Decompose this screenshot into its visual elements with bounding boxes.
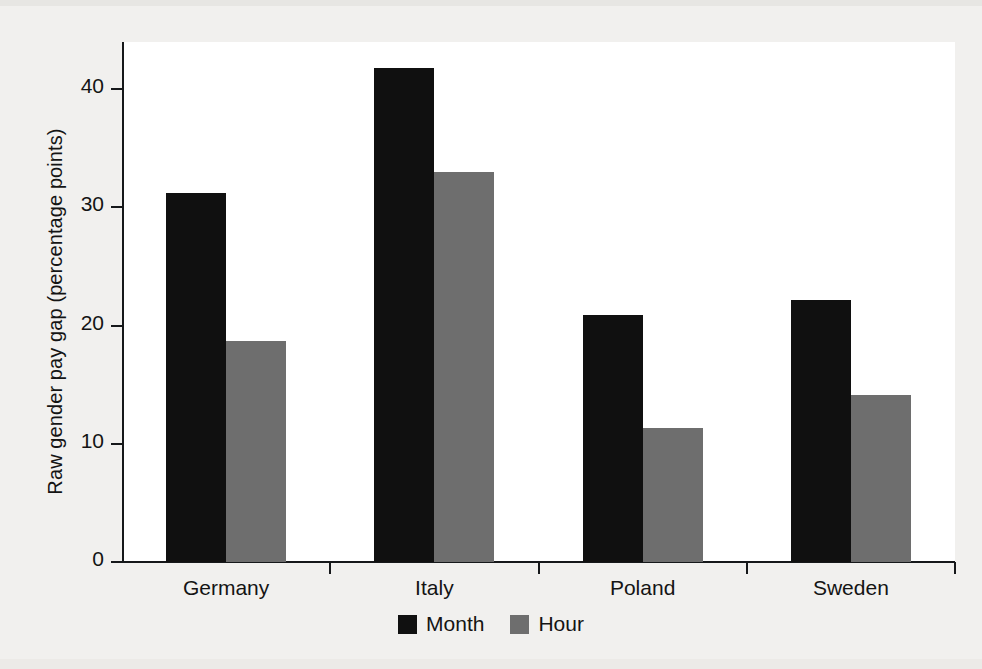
bars-layer: [122, 42, 955, 562]
bar-italy-hour: [434, 172, 494, 562]
chart-legend: MonthHour: [0, 612, 982, 636]
y-axis-tick-mark: [111, 443, 122, 445]
y-axis-title: Raw gender pay gap (percentage points): [44, 52, 67, 572]
legend-swatch-icon: [510, 615, 529, 634]
y-axis-tick-label: 10: [81, 429, 104, 453]
legend-entry-hour: Hour: [510, 612, 584, 636]
bar-sweden-hour: [851, 395, 911, 562]
bar-poland-month: [583, 315, 643, 562]
legend-label: Hour: [538, 612, 584, 636]
bar-germany-hour: [226, 341, 286, 562]
x-axis-tick-mark: [954, 562, 956, 574]
y-axis-tick-mark: [111, 88, 122, 90]
x-axis-tick-mark: [538, 562, 540, 574]
y-axis-tick-label: 0: [92, 547, 104, 571]
x-axis-tick-mark: [746, 562, 748, 574]
y-axis-tick: 0: [0, 561, 122, 563]
y-axis-tick: 20: [0, 325, 122, 327]
legend-swatch-icon: [398, 615, 417, 634]
legend-entry-month: Month: [398, 612, 484, 636]
bar-poland-hour: [643, 428, 703, 562]
bar-chart-figure: Raw gender pay gap (percentage points) 0…: [0, 0, 982, 669]
bar-germany-month: [166, 193, 226, 562]
y-axis-tick-label: 30: [81, 192, 104, 216]
y-axis-tick: 10: [0, 443, 122, 445]
y-axis-tick: 30: [0, 206, 122, 208]
x-axis-label-italy: Italy: [415, 576, 454, 600]
bar-italy-month: [374, 68, 434, 562]
x-axis-tick-mark: [329, 562, 331, 574]
y-axis-tick-mark: [111, 206, 122, 208]
x-axis-label-sweden: Sweden: [813, 576, 889, 600]
y-axis-tick-label: 20: [81, 311, 104, 335]
y-axis-tick-mark: [111, 561, 122, 563]
y-axis-tick-label: 40: [81, 74, 104, 98]
x-axis-label-poland: Poland: [610, 576, 675, 600]
legend-label: Month: [426, 612, 484, 636]
y-axis-tick-mark: [111, 325, 122, 327]
bar-sweden-month: [791, 300, 851, 562]
y-axis-tick: 40: [0, 88, 122, 90]
x-axis-label-germany: Germany: [183, 576, 269, 600]
